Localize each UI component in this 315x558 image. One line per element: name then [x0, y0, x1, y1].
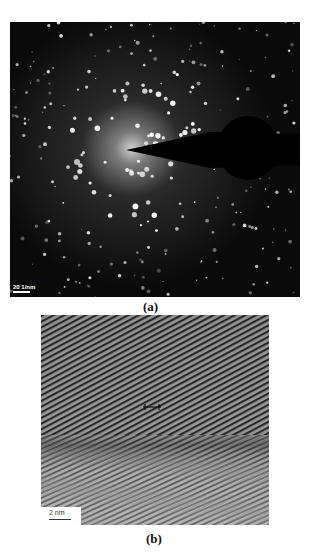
diffraction-pattern-image: 20 1/nm: [10, 22, 300, 297]
scale-bar-b: 2 nm: [41, 507, 81, 525]
caption-b: (b): [146, 531, 162, 547]
caption-a: (a): [143, 299, 158, 315]
hrtem-image: 2 nm: [41, 315, 269, 525]
scale-bar-text: 2 nm: [49, 509, 81, 516]
scale-bar-line: [49, 519, 71, 520]
lattice-fringes-graphic: [41, 315, 269, 525]
scale-bar-line: [13, 291, 30, 293]
scale-bar-text: 20 1/nm: [13, 284, 35, 290]
scale-bar-a: 20 1/nm: [13, 284, 35, 293]
diffraction-pattern-graphic: [10, 22, 300, 297]
